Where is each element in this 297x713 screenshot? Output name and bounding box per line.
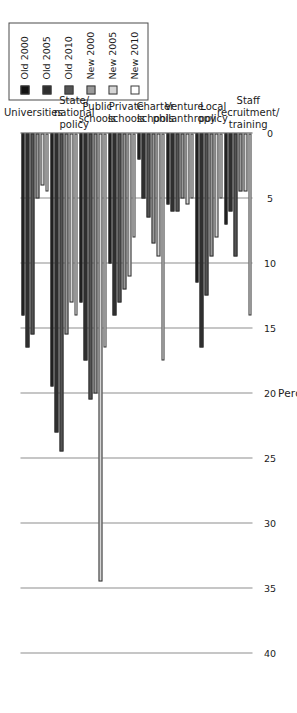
bar <box>79 133 83 302</box>
legend-item-label: New 2000 <box>85 31 95 79</box>
bar-group <box>49 133 78 653</box>
legend-item-label: New 2010 <box>129 31 139 79</box>
bar <box>190 133 194 198</box>
bar <box>69 133 73 302</box>
bar <box>59 133 63 452</box>
bar <box>21 133 25 315</box>
legend-item[interactable]: New 2010 <box>125 28 143 94</box>
bar <box>228 133 232 211</box>
x-tick-label: 35 <box>257 583 283 594</box>
bar <box>209 133 213 257</box>
bar <box>199 133 203 348</box>
chart-legend: Old 2000Old 2005Old 2010New 2000New 2005… <box>8 22 148 100</box>
bar <box>175 133 179 211</box>
bar-group <box>78 133 107 653</box>
chart-root: Old 2000Old 2005Old 2010New 2000New 2005… <box>0 0 297 713</box>
legend-swatch-icon <box>42 85 51 94</box>
bar <box>161 133 165 361</box>
legend-item-label: Old 2005 <box>41 36 51 79</box>
bar <box>54 133 58 432</box>
x-axis-title: Percent <box>278 387 297 399</box>
bar <box>137 133 141 159</box>
bar <box>248 133 252 315</box>
bar <box>204 133 208 296</box>
bar <box>45 133 49 192</box>
bar <box>219 133 223 198</box>
x-tick-label: 10 <box>257 258 283 269</box>
bar <box>185 133 189 205</box>
legend-swatch-icon <box>20 85 29 94</box>
bar <box>74 133 78 315</box>
category-label: Staffrecruitment/training <box>208 95 286 130</box>
bar <box>64 133 68 335</box>
bar <box>40 133 44 185</box>
bar <box>238 133 242 192</box>
bar <box>132 133 136 237</box>
plot-area: 0510152025303540UniversitiesState/nation… <box>20 133 252 653</box>
bar <box>122 133 126 289</box>
bar <box>151 133 155 244</box>
bar-group <box>194 133 223 653</box>
bar <box>233 133 237 257</box>
bar <box>243 133 247 192</box>
bar <box>25 133 29 348</box>
legend-item-label: Old 2000 <box>19 36 29 79</box>
bar <box>93 133 97 393</box>
bar <box>108 133 112 263</box>
legend-item[interactable]: Old 2005 <box>37 28 55 94</box>
bar <box>214 133 218 237</box>
legend-item[interactable]: Old 2000 <box>15 28 33 94</box>
x-tick-label: 30 <box>257 518 283 529</box>
legend-item[interactable]: New 2000 <box>81 28 99 94</box>
bar <box>30 133 34 335</box>
bar <box>112 133 116 315</box>
bar <box>98 133 102 582</box>
bar <box>83 133 87 361</box>
bar-group <box>20 133 49 653</box>
legend-item[interactable]: New 2005 <box>103 28 121 94</box>
x-tick-label: 15 <box>257 323 283 334</box>
bar-group <box>223 133 252 653</box>
legend-item-label: New 2005 <box>107 31 117 79</box>
bar <box>166 133 170 205</box>
bar-group <box>107 133 136 653</box>
bar-group <box>165 133 194 653</box>
bar-group <box>136 133 165 653</box>
legend-item-label: Old 2010 <box>63 36 73 79</box>
x-tick-label: 40 <box>257 648 283 659</box>
x-tick-label: 25 <box>257 453 283 464</box>
bar <box>50 133 54 387</box>
x-tick-label: 5 <box>257 193 283 204</box>
bar <box>35 133 39 198</box>
bar <box>146 133 150 218</box>
bar <box>117 133 121 302</box>
legend-item[interactable]: Old 2010 <box>59 28 77 94</box>
legend-swatch-icon <box>86 85 95 94</box>
bar <box>195 133 199 283</box>
legend-swatch-icon <box>130 85 139 94</box>
bar <box>127 133 131 276</box>
bar <box>170 133 174 211</box>
chart-stage: Old 2000Old 2005Old 2010New 2000New 2005… <box>0 0 297 713</box>
bar <box>141 133 145 198</box>
bar <box>224 133 228 224</box>
bar <box>180 133 184 198</box>
bar <box>103 133 107 348</box>
legend-swatch-icon <box>108 85 117 94</box>
bar <box>156 133 160 257</box>
bar <box>88 133 92 400</box>
legend-swatch-icon <box>64 85 73 94</box>
